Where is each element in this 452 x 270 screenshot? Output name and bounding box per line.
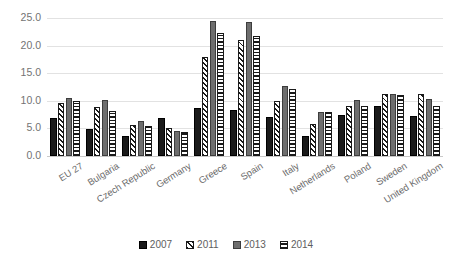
legend-label: 2007 bbox=[150, 240, 172, 250]
legend-item[interactable]: 2011 bbox=[186, 240, 219, 250]
bar bbox=[181, 132, 188, 156]
bar-chart: EU 27BulgariaCzech RepublicGermanyGreece… bbox=[0, 0, 452, 270]
bar-group bbox=[119, 18, 155, 156]
bar bbox=[354, 100, 361, 156]
bar bbox=[390, 94, 397, 156]
legend-item[interactable]: 2013 bbox=[233, 240, 266, 250]
bar bbox=[202, 57, 209, 156]
bar bbox=[210, 21, 217, 156]
bar bbox=[194, 108, 201, 156]
legend-swatch-icon bbox=[280, 241, 288, 249]
bar bbox=[174, 131, 181, 156]
bar-group bbox=[47, 18, 83, 156]
bar bbox=[66, 98, 73, 157]
bar bbox=[374, 106, 381, 156]
legend-label: 2011 bbox=[197, 240, 219, 250]
y-axis-tick-label: 0.0 bbox=[0, 149, 41, 161]
bar bbox=[325, 112, 332, 156]
legend-swatch-icon bbox=[233, 241, 241, 249]
bar bbox=[361, 106, 368, 156]
bar bbox=[410, 116, 417, 156]
bar bbox=[50, 118, 57, 156]
bar bbox=[282, 86, 289, 156]
bar-group bbox=[227, 18, 263, 156]
x-axis-tick-label: Spain bbox=[238, 160, 264, 182]
legend-swatch-icon bbox=[186, 241, 194, 249]
bar bbox=[318, 112, 325, 156]
bar bbox=[274, 101, 281, 156]
x-axis-tick-label: Germany bbox=[154, 160, 193, 190]
bar bbox=[310, 124, 317, 156]
bar bbox=[433, 106, 440, 156]
bar bbox=[302, 136, 309, 156]
bar bbox=[109, 111, 116, 156]
bar-group bbox=[371, 18, 407, 156]
bar bbox=[58, 103, 65, 156]
x-axis-tick-label: Poland bbox=[342, 160, 373, 185]
legend-item[interactable]: 2014 bbox=[280, 240, 313, 250]
bar bbox=[418, 94, 425, 156]
bar-groups bbox=[47, 18, 443, 156]
bar bbox=[426, 99, 433, 156]
bar bbox=[138, 121, 145, 156]
x-axis-tick-label: EU 27 bbox=[57, 160, 85, 183]
bar bbox=[145, 126, 152, 156]
bar bbox=[230, 110, 237, 156]
y-axis-tick-label: 15.0 bbox=[0, 66, 41, 78]
bar bbox=[397, 95, 404, 156]
x-axis-tick-label: Italy bbox=[280, 160, 301, 179]
bar bbox=[86, 129, 93, 156]
y-axis-tick-label: 25.0 bbox=[0, 11, 41, 23]
x-axis-tick-label: Greece bbox=[197, 160, 229, 186]
bar bbox=[158, 118, 165, 156]
bar bbox=[253, 36, 260, 156]
legend-item[interactable]: 2007 bbox=[139, 240, 172, 250]
chart-legend: 2007201120132014 bbox=[0, 240, 452, 250]
bar-group bbox=[263, 18, 299, 156]
bar-group bbox=[191, 18, 227, 156]
bar bbox=[289, 89, 296, 156]
bar bbox=[122, 136, 129, 156]
bar bbox=[94, 107, 101, 156]
legend-label: 2014 bbox=[291, 240, 313, 250]
bar-group bbox=[407, 18, 443, 156]
bar-group bbox=[299, 18, 335, 156]
legend-label: 2013 bbox=[244, 240, 266, 250]
bar bbox=[166, 128, 173, 156]
bar-group bbox=[83, 18, 119, 156]
gridline bbox=[47, 156, 443, 157]
bar-group bbox=[335, 18, 371, 156]
bar bbox=[238, 40, 245, 156]
bar bbox=[246, 22, 253, 156]
y-axis-tick-label: 20.0 bbox=[0, 39, 41, 51]
bar bbox=[338, 115, 345, 156]
legend-swatch-icon bbox=[139, 241, 147, 249]
bar bbox=[130, 125, 137, 156]
bar-group bbox=[155, 18, 191, 156]
bar bbox=[266, 117, 273, 156]
y-axis-tick-label: 5.0 bbox=[0, 121, 41, 133]
plot-area bbox=[47, 18, 443, 156]
bar bbox=[382, 94, 389, 156]
bar bbox=[73, 101, 80, 156]
y-axis-tick-label: 10.0 bbox=[0, 94, 41, 106]
bar bbox=[217, 33, 224, 156]
bar bbox=[102, 100, 109, 156]
bar bbox=[346, 106, 353, 156]
